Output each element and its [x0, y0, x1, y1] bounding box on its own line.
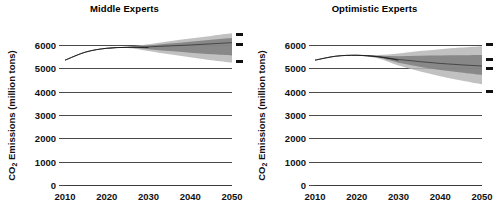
y-tick-label-4000: 4000 [35, 86, 56, 97]
y-tick-label-6000: 6000 [285, 40, 306, 51]
x-tick-label-2050: 2050 [471, 191, 492, 202]
figure-container: Middle Experts CO2 Emissions (million to… [0, 0, 499, 223]
x-tick-label-2040: 2040 [430, 191, 451, 202]
x-tick-label-2050: 2050 [221, 191, 242, 202]
y-axis-title-left: CO2 Emissions (million tons) [4, 45, 18, 185]
x-tick-label-2020: 2020 [346, 191, 367, 202]
panel-title-middle: Middle Experts [0, 3, 249, 15]
y-tick-label-2000: 2000 [35, 133, 56, 144]
endpoint-marker-1 [486, 58, 493, 61]
y-tick-0 [59, 185, 65, 186]
y-tick-label-5000: 5000 [285, 63, 306, 74]
y-tick-label-0: 0 [301, 180, 306, 191]
panel-middle-experts: Middle Experts CO2 Emissions (million to… [0, 0, 249, 223]
historical-emissions-line [65, 47, 149, 60]
y-tick-label-3000: 3000 [35, 110, 56, 121]
endpoint-marker-1 [236, 43, 243, 46]
endpoint-marker-0 [486, 43, 493, 46]
fan-svg-middle [65, 45, 232, 185]
y-axis-title-right: CO2 Emissions (million tons) [254, 45, 268, 185]
panel-optimistic-experts: Optimistic Experts CO2 Emissions (millio… [250, 0, 499, 223]
endpoint-marker-3 [486, 90, 493, 93]
y-tick-label-1000: 1000 [35, 156, 56, 167]
plot-area-optimistic: 0100020003000400050006000 20102020203020… [315, 45, 482, 185]
x-tick-label-2030: 2030 [138, 191, 159, 202]
fan-chart-middle [65, 45, 232, 185]
x-tick-label-2010: 2010 [54, 191, 75, 202]
y-tick-0 [309, 185, 315, 186]
y-tick-label-4000: 4000 [285, 86, 306, 97]
y-tick-label-6000: 6000 [35, 40, 56, 51]
x-tick-label-2040: 2040 [180, 191, 201, 202]
fan-svg-optimistic [315, 45, 482, 185]
panel-title-optimistic: Optimistic Experts [250, 3, 499, 15]
x-tick-label-2010: 2010 [304, 191, 325, 202]
x-tick-label-2020: 2020 [96, 191, 117, 202]
endpoint-marker-2 [486, 67, 493, 70]
y-tick-label-3000: 3000 [285, 110, 306, 121]
y-tick-label-2000: 2000 [285, 133, 306, 144]
endpoint-marker-2 [236, 60, 243, 63]
y-tick-label-5000: 5000 [35, 63, 56, 74]
x-tick-label-2030: 2030 [388, 191, 409, 202]
gridline-0 [65, 185, 232, 186]
endpoint-marker-0 [236, 33, 243, 36]
gridline-0 [315, 185, 482, 186]
plot-area-middle: 0100020003000400050006000 20102020203020… [65, 45, 232, 185]
y-tick-label-1000: 1000 [285, 156, 306, 167]
fan-chart-optimistic [315, 45, 482, 185]
y-tick-label-0: 0 [51, 180, 56, 191]
